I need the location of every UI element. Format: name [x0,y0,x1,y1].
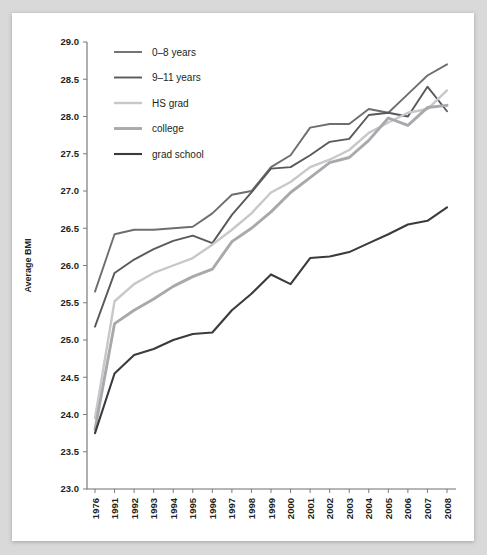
legend-label-4: grad school [152,149,204,160]
y-tick-label: 26.0 [61,260,80,271]
series-line-hs-grad [95,90,447,418]
x-tick-label: 2002 [324,498,335,519]
legend-label-3: college [152,123,184,134]
y-tick-label: 23.5 [61,446,80,457]
x-tick-label: 1996 [207,498,218,519]
x-tick-label: 1997 [226,498,237,519]
x-tick-label: 2004 [363,497,374,519]
x-tick-label: 1992 [129,498,140,519]
x-tick-label: 1994 [168,497,179,519]
y-tick-label: 23.0 [61,483,80,494]
x-tick-label: 2007 [422,498,433,519]
bmi-line-chart: 29.028.528.027.527.026.526.025.525.024.5… [0,0,487,555]
legend-label-0: 0–8 years [152,47,196,58]
x-tick-label: 2008 [442,498,453,519]
y-tick-label: 24.0 [61,409,80,420]
series-line-0-8-years [95,64,447,291]
page-background: 29.028.528.027.527.026.526.025.525.024.5… [0,0,487,555]
x-tick-label: 1999 [266,498,277,519]
y-tick-label: 25.0 [61,334,80,345]
x-tick-label: 2003 [344,498,355,519]
x-tick-label: 2000 [285,498,296,519]
y-tick-label: 25.5 [61,297,80,308]
x-tick-label: 1998 [246,498,257,519]
y-tick-label: 24.5 [61,372,80,383]
x-tick-label: 1991 [109,497,120,519]
x-tick-label: 1995 [187,497,198,519]
legend-label-2: HS grad [152,98,189,109]
x-tick-label: 2001 [305,497,316,519]
y-tick-label: 27.5 [61,148,80,159]
y-tick-label: 28.0 [61,111,80,122]
y-tick-label: 26.5 [61,223,80,234]
legend-label-1: 9–11 years [152,72,201,83]
x-tick-label: 2006 [402,498,413,519]
chart-axes [87,42,456,489]
x-tick-label: 1993 [148,498,159,519]
y-tick-label: 29.0 [61,36,80,47]
y-tick-label: 27.0 [61,185,80,196]
y-tick-label: 28.5 [61,74,80,85]
series-line-college [95,105,447,429]
x-tick-label: 2005 [383,497,394,519]
series-line-9-11-years [95,87,447,327]
y-axis-title: Average BMI [23,238,33,292]
series-line-grad-school [95,207,447,433]
x-tick-label: 1976 [90,498,101,519]
